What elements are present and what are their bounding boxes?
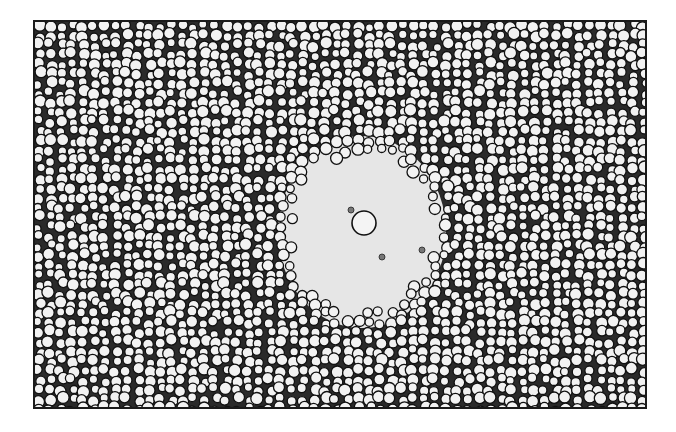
micrograph-frame xyxy=(33,20,647,409)
cell-field-image xyxy=(35,22,645,407)
